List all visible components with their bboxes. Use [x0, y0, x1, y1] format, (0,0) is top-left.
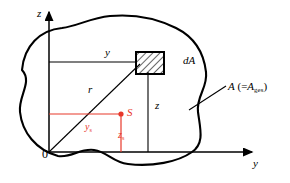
centroid-y-subscript: s — [89, 126, 92, 133]
origin-label: 0 — [42, 148, 48, 160]
centroid-point-marker — [118, 111, 123, 116]
centroid-z-label: zs — [118, 130, 124, 140]
centroid-z-subscript: s — [122, 134, 125, 141]
area-centroid-figure: z y 0 y z r dA A (=Ages) S ys zs — [0, 0, 290, 183]
radius-label: r — [88, 84, 92, 95]
z-axis-label: z — [37, 8, 41, 19]
z-dimension-label: z — [155, 100, 159, 111]
differential-area-label: dA — [183, 55, 195, 66]
y-dimension-label: y — [105, 47, 110, 58]
differential-area-element-fill — [136, 52, 164, 74]
centroid-label: S — [127, 107, 133, 118]
total-area-symbol: A — [228, 80, 235, 92]
total-area-prefix: (= — [237, 80, 247, 92]
total-area-label: A (=Ages) — [228, 81, 267, 92]
total-area-suffix: ) — [263, 80, 267, 92]
total-area-subscript: ges — [254, 86, 263, 93]
centroid-y-label: ys — [85, 122, 92, 132]
y-axis-label: y — [253, 158, 258, 169]
